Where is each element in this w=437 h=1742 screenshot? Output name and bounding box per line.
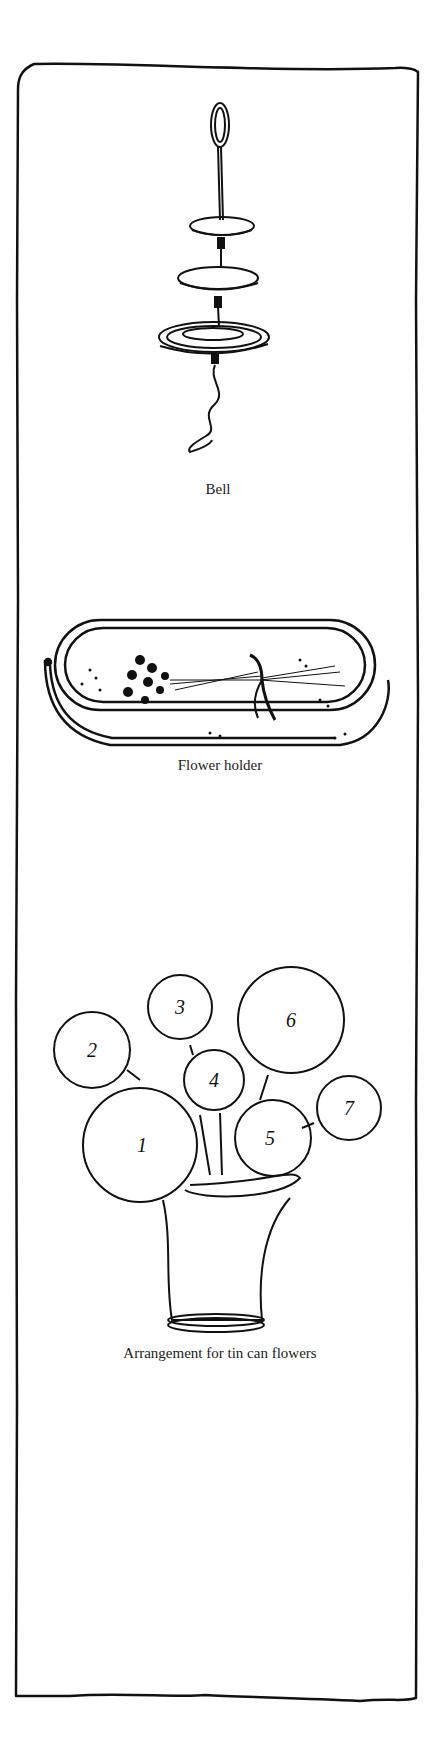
caption-bell: Bell bbox=[206, 481, 231, 497]
circle-label-3: 3 bbox=[174, 996, 185, 1018]
circle-label-2: 2 bbox=[87, 1039, 97, 1061]
arrangement-drawing bbox=[54, 967, 381, 1332]
caption-arrangement: Arrangement for tin can flowers bbox=[123, 1345, 316, 1361]
flower-holder-drawing bbox=[45, 620, 389, 745]
caption-flower-holder: Flower holder bbox=[178, 757, 263, 773]
circle-label-1: 1 bbox=[137, 1134, 147, 1156]
frame-border bbox=[16, 64, 418, 1701]
bell-drawing bbox=[159, 103, 269, 452]
illustration-panel: Bell Flower holder bbox=[0, 0, 437, 1742]
circle-label-4: 4 bbox=[209, 1069, 219, 1091]
circle-label-7: 7 bbox=[344, 1097, 355, 1119]
circle-label-5: 5 bbox=[265, 1127, 275, 1149]
circle-label-6: 6 bbox=[286, 1009, 296, 1031]
